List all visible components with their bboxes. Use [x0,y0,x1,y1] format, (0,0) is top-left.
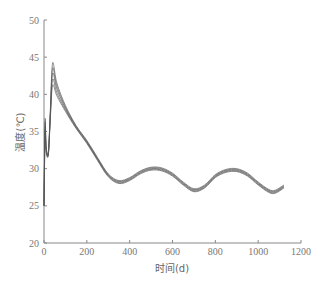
x-tick-label: 0 [42,246,47,257]
series-line [44,79,284,206]
series-line [44,85,284,206]
x-tick-label: 800 [208,246,223,257]
x-axis-label: 时间(d) [155,262,189,274]
x-tick-label: 400 [122,246,137,257]
x-tick-label: 1000 [248,246,268,257]
y-tick-label: 45 [29,52,39,63]
y-tick-label: 35 [29,126,39,137]
x-tick-label: 600 [165,246,180,257]
y-tick-label: 20 [29,238,39,249]
y-tick-label: 40 [29,89,39,100]
series-line [44,73,284,206]
y-axis-label: 温度(℃) [14,112,26,151]
series-line [44,68,284,206]
series-group [44,62,284,205]
y-tick-label: 30 [29,163,39,174]
y-tick-label: 25 [29,200,39,211]
y-tick-label: 50 [29,15,39,26]
axes: 20253035404550020040060080010001200 [29,15,311,258]
x-tick-label: 1200 [291,246,311,257]
x-tick-label: 200 [79,246,94,257]
line-chart: 20253035404550020040060080010001200 时间(d… [0,0,325,286]
